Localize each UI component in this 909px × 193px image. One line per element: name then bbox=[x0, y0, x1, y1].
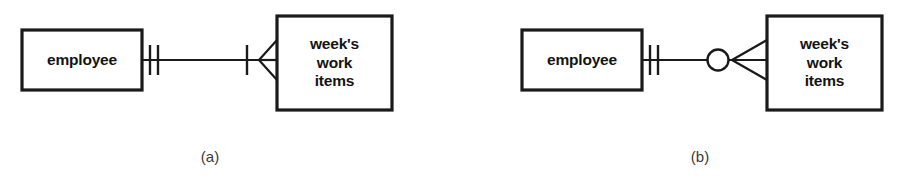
entity-label-weeks-work-items: week's work items bbox=[277, 16, 392, 110]
entity-label-weeks-work-items: week's work items bbox=[767, 16, 882, 110]
entity-label-employee: employee bbox=[522, 30, 642, 90]
figure-caption-a: (a) bbox=[180, 148, 240, 165]
crows-foot-lower-prong-icon bbox=[259, 60, 277, 80]
crows-foot-upper-prong-icon bbox=[259, 40, 277, 60]
crows-foot-lower-prong-icon bbox=[732, 60, 767, 80]
er-diagram-a: employee week's work items (a) bbox=[0, 0, 455, 193]
er-diagram-b: employee week's work items (b) bbox=[454, 0, 909, 193]
er-diagram-figure: employee week's work items (a) bbox=[0, 0, 909, 193]
crows-foot-upper-prong-icon bbox=[732, 40, 767, 60]
cardinality-symbol-zero-or-many-right[interactable] bbox=[708, 40, 768, 80]
figure-caption-b: (b) bbox=[670, 148, 730, 165]
zero-circle-icon bbox=[708, 50, 729, 71]
entity-label-employee: employee bbox=[22, 30, 142, 90]
